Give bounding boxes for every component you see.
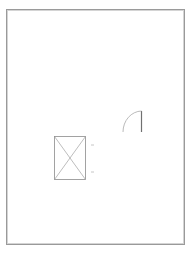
room-outline-outer (7, 10, 185, 245)
floor-plan-drawing (0, 0, 194, 257)
room-outline-inner (8, 11, 184, 244)
fixture-box (55, 137, 86, 180)
door-swing-symbol (123, 111, 142, 132)
door-swing-arc (123, 111, 142, 132)
